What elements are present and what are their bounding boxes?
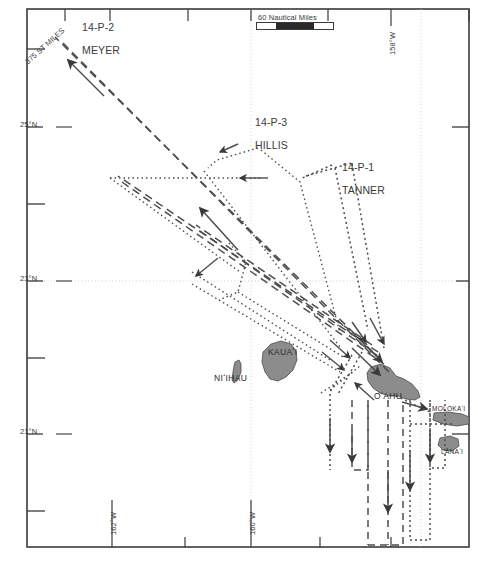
map-canvas [0,0,478,580]
island-label-kauai: KAUAʻI [268,348,298,358]
axis-label-lon-162: 162°W [110,512,118,535]
scale-bar-graphic [256,22,334,30]
island-label-niihau: NIʻIHAU [214,374,247,384]
survey-name-tanner: TANNER [342,184,385,196]
island-label-lanai: LĀNAʻI [441,448,463,455]
survey-id-14-P-2: 14-P-2 [82,21,114,33]
scale-seg-2 [276,23,295,29]
survey-name-meyer: MEYER [82,44,120,56]
scale-bar: 60 Nautical Miles [256,14,334,30]
survey-id-14-P-1: 14-P-1 [342,161,374,173]
survey-label-14-P-1: 14-P-1 TANNER [330,150,385,209]
scale-seg-1 [257,23,276,29]
scale-seg-3 [295,23,314,29]
scale-seg-4 [314,23,333,29]
axis-label-lat-23: 23°N [20,275,37,283]
scale-bar-caption: 60 Nautical Miles [258,14,336,22]
axis-label-lat-21: 21°N [20,428,37,436]
axis-label-lat-25: 25°N [20,121,37,129]
survey-id-14-P-3: 14-P-3 [255,116,287,128]
survey-label-14-P-3: 14-P-3 HILLIS [243,105,288,164]
island-label-molokai: MOLOKAʻI [432,405,465,412]
survey-name-hillis: HILLIS [255,139,288,151]
axis-label-lon-160: 160°W [249,512,257,535]
survey-label-14-P-2: 14-P-2 MEYER [70,10,120,69]
map-figure: 375 ST MILES 14-P-2 MEYER 14-P-3 HILLIS … [0,0,478,580]
island-label-oahu: OʻAHU [374,392,402,402]
axis-label-lon-158: 158°W [389,32,397,55]
